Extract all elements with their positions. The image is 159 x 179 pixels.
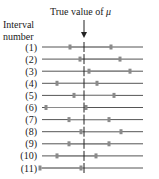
interval-endpoint-marker <box>110 45 113 50</box>
interval-row: (9) <box>25 138 143 150</box>
interval-row: (3) <box>25 66 143 78</box>
interval-row: (11) <box>21 163 143 175</box>
interval-row: (6) <box>25 102 143 114</box>
interval-label: (7) <box>25 114 37 126</box>
interval-label: (8) <box>25 126 37 138</box>
interval-endpoint-marker <box>80 129 83 134</box>
interval-label: (9) <box>25 138 37 150</box>
interval-label: (1) <box>25 42 37 54</box>
interval-row: (5) <box>25 90 143 102</box>
interval-label: (3) <box>25 66 37 78</box>
interval-row: (1) <box>25 42 143 54</box>
interval-endpoint-marker <box>108 117 111 122</box>
interval-endpoint-marker <box>68 117 71 122</box>
interval-endpoint-marker <box>119 57 122 62</box>
interval-endpoint-marker <box>68 141 71 146</box>
interval-endpoint-marker <box>73 93 76 98</box>
interval-endpoint-marker <box>85 105 88 110</box>
interval-endpoint-marker <box>79 57 82 62</box>
interval-label: (10) <box>20 150 37 162</box>
interval-plot: (1)(2)(3)(4)(5)(6)(7)(8)(9)(10)(11) <box>0 0 159 179</box>
interval-endpoint-marker <box>39 166 42 171</box>
interval-endpoint-marker <box>95 153 98 158</box>
interval-endpoint-marker <box>56 153 59 158</box>
interval-row: (4) <box>25 78 143 90</box>
interval-endpoint-marker <box>113 93 116 98</box>
interval-endpoint-marker <box>80 166 83 171</box>
interval-endpoint-marker <box>96 81 99 86</box>
true-value-arrow-icon <box>81 20 87 38</box>
interval-label: (5) <box>25 90 37 102</box>
interval-row: (7) <box>25 114 143 126</box>
interval-endpoint-marker <box>129 69 132 74</box>
interval-endpoint-marker <box>88 69 91 74</box>
interval-endpoint-marker <box>69 45 72 50</box>
interval-endpoint-marker <box>120 129 123 134</box>
interval-label: (11) <box>21 163 37 175</box>
interval-endpoint-marker <box>56 81 59 86</box>
interval-label: (2) <box>25 54 37 66</box>
interval-row: (2) <box>25 54 143 66</box>
interval-row: (8) <box>25 126 143 138</box>
interval-endpoint-marker <box>108 141 111 146</box>
interval-endpoint-marker <box>45 105 48 110</box>
interval-row: (10) <box>20 150 143 162</box>
interval-label: (4) <box>25 78 37 90</box>
interval-label: (6) <box>25 102 37 114</box>
